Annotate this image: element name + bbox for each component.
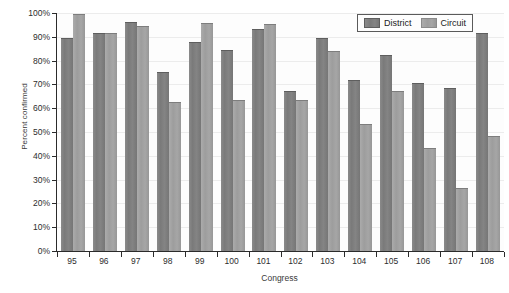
bar-group	[153, 13, 185, 251]
y-axis-tick-label: 100%	[28, 8, 50, 18]
y-axis-tick-label: 30%	[33, 175, 50, 185]
bar-group	[472, 13, 504, 251]
bar-groups	[57, 13, 504, 251]
y-axis-tick-label: 50%	[33, 127, 50, 137]
legend-entry-district: District	[364, 18, 412, 28]
bar-group	[344, 13, 376, 251]
bar-district-105	[380, 55, 392, 251]
bar-group	[440, 13, 472, 251]
y-axis-tick-label: 90%	[33, 32, 50, 42]
bar-district-99	[189, 42, 201, 251]
bar-circuit-105	[392, 91, 404, 251]
x-axis-tick-label: 95	[56, 256, 88, 272]
bar-district-96	[93, 33, 105, 251]
bar-district-98	[157, 72, 169, 252]
bar-circuit-103	[328, 51, 340, 251]
bar-circuit-97	[137, 26, 149, 251]
bar-group	[57, 13, 89, 251]
legend-label-district: District	[384, 18, 412, 28]
bar-circuit-102	[296, 100, 308, 251]
bar-circuit-101	[264, 24, 276, 251]
legend-label-circuit: Circuit	[441, 18, 467, 28]
bar-circuit-98	[169, 102, 181, 251]
bar-group	[312, 13, 344, 251]
bar-group	[217, 13, 249, 251]
bar-circuit-104	[360, 124, 372, 251]
bar-district-108	[476, 33, 488, 251]
bar-circuit-96	[105, 33, 117, 251]
bar-circuit-99	[201, 23, 213, 251]
x-axis-tick-label: 101	[248, 256, 280, 272]
bar-district-106	[412, 83, 424, 251]
bar-district-104	[348, 80, 360, 251]
x-axis-tick	[504, 252, 505, 257]
bar-circuit-107	[456, 188, 468, 251]
x-axis-tick-label: 102	[279, 256, 311, 272]
x-axis-title: Congress	[56, 273, 503, 283]
bar-district-102	[284, 91, 296, 251]
x-axis-tick-label: 108	[471, 256, 503, 272]
y-axis-tick-label: 40%	[33, 151, 50, 161]
bar-group	[249, 13, 281, 251]
y-axis-tick-label: 0%	[38, 246, 50, 256]
bar-circuit-108	[488, 136, 500, 251]
y-axis-tick-label: 20%	[33, 198, 50, 208]
bar-circuit-100	[233, 100, 245, 251]
bar-group	[376, 13, 408, 251]
x-axis-tick-label: 104	[343, 256, 375, 272]
x-axis-tick-label: 97	[120, 256, 152, 272]
bar-group	[121, 13, 153, 251]
bar-district-95	[61, 38, 73, 251]
x-axis-tick-label: 99	[184, 256, 216, 272]
y-axis-title: Percent confirmed	[20, 37, 29, 197]
legend-swatch-district	[364, 18, 380, 28]
legend: District Circuit	[357, 14, 473, 32]
bar-group	[89, 13, 121, 251]
bar-circuit-95	[73, 14, 85, 251]
x-axis-tick-label: 96	[88, 256, 120, 272]
bar-district-103	[316, 38, 328, 251]
y-axis-tick-label: 70%	[33, 79, 50, 89]
x-axis-tick-labels: 9596979899100101102103104105106107108	[56, 256, 503, 272]
x-axis-tick-label: 105	[375, 256, 407, 272]
bar-group	[280, 13, 312, 251]
legend-entry-circuit: Circuit	[421, 18, 467, 28]
y-axis-tick-label: 80%	[33, 56, 50, 66]
x-axis-tick-label: 100	[216, 256, 248, 272]
bar-district-101	[252, 29, 264, 251]
bar-circuit-106	[424, 148, 436, 251]
x-axis-tick-label: 106	[407, 256, 439, 272]
bar-group	[185, 13, 217, 251]
bar-district-107	[444, 88, 456, 251]
y-axis-tick-label: 60%	[33, 103, 50, 113]
bar-district-100	[221, 50, 233, 251]
chart-figure: Percent confirmed 0%10%20%30%40%50%60%70…	[0, 0, 509, 293]
x-axis-tick-label: 107	[439, 256, 471, 272]
bar-group	[408, 13, 440, 251]
y-axis-tick-label: 10%	[33, 222, 50, 232]
legend-swatch-circuit	[421, 18, 437, 28]
x-axis-tick-label: 103	[311, 256, 343, 272]
bar-district-97	[125, 22, 137, 251]
x-axis-tick-label: 98	[152, 256, 184, 272]
plot-area: 0%10%20%30%40%50%60%70%80%90%100%	[56, 13, 504, 252]
